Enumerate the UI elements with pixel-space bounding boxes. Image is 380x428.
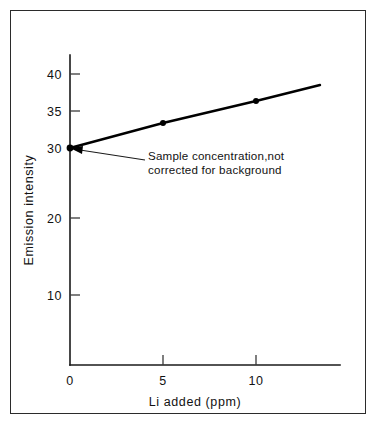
x-tick-label-5: 5 — [159, 374, 166, 388]
annotation-line-2: corrected for background — [148, 163, 282, 176]
annotation-leader-line — [80, 150, 145, 160]
x-axis-title: Li added (ppm) — [149, 395, 241, 409]
y-tick-label-10: 10 — [47, 289, 62, 303]
data-point-5ppm — [160, 120, 166, 126]
y-axis-title: Emission intensity — [22, 154, 36, 265]
chart-canvas: 40 35 30 20 10 0 5 10 Li added (ppm) Emi… — [0, 0, 380, 428]
y-tick-label-40: 40 — [47, 68, 62, 82]
y-tick-label-35: 35 — [47, 105, 62, 119]
y-tick-label-20: 20 — [47, 212, 62, 226]
x-tick-label-0: 0 — [66, 374, 73, 388]
data-point-10ppm — [253, 98, 259, 104]
x-tick-label-10: 10 — [249, 374, 264, 388]
y-tick-label-30: 30 — [47, 142, 62, 156]
annotation-line-1: Sample concentration,not — [148, 149, 285, 162]
figure-container: 40 35 30 20 10 0 5 10 Li added (ppm) Emi… — [0, 0, 380, 428]
data-series-line — [70, 85, 320, 148]
